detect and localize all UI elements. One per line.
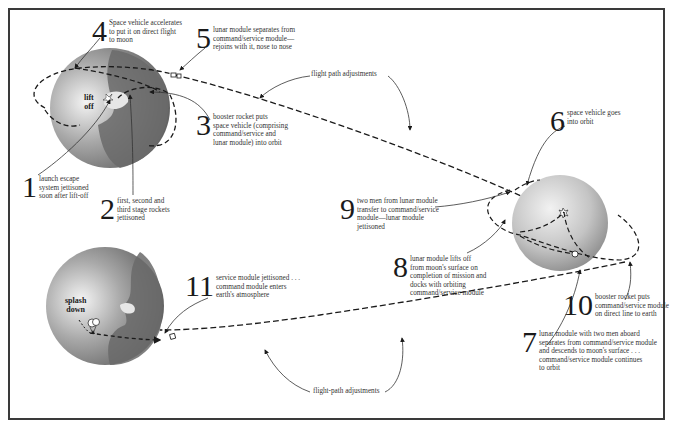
- step-11: 11 service module jettisoned . . . comma…: [185, 273, 300, 300]
- step-text: space vehicle goes into orbit: [567, 108, 620, 126]
- step-7: 7 lunar module with two men aboard separ…: [522, 329, 657, 373]
- step-8: 8 lunar module lifts off from moon's sur…: [393, 254, 486, 298]
- splashdown-label: splash down: [65, 296, 86, 314]
- step-1: 1 launch escape system jettisoned soon a…: [22, 174, 89, 201]
- earth-return: [46, 247, 164, 365]
- outbound-adjustments-note: flight path adjustments: [311, 70, 377, 78]
- step-number: 6: [550, 108, 565, 134]
- step-2: 2 first, second and third stage rockets …: [100, 196, 170, 223]
- return-adjustments-note: flight-path adjustments: [313, 387, 379, 395]
- step-number: 3: [196, 112, 211, 138]
- step-text: booster rocket puts space vehicle (compr…: [213, 112, 288, 147]
- earth-launch: [50, 48, 170, 168]
- step-text: lunar module with two men aboard separat…: [539, 329, 657, 373]
- step-number: 5: [196, 25, 211, 51]
- step-number: 4: [92, 18, 107, 44]
- step-number: 11: [185, 273, 214, 299]
- step-number: 1: [22, 174, 37, 200]
- step-text: Space vehicle accelerates to put it on d…: [109, 18, 182, 45]
- lunar-module-icon: [572, 251, 578, 257]
- step-10: 10 booster rocket puts command/service m…: [563, 292, 669, 319]
- step-number: 7: [522, 329, 537, 355]
- step-text: lunar module lifts off from moon's surfa…: [410, 254, 486, 298]
- step-3: 3 booster rocket puts space vehicle (com…: [196, 112, 288, 147]
- step-number: 2: [100, 196, 115, 222]
- step-text: launch escape system jettisoned soon aft…: [39, 174, 89, 201]
- step-text: two men from lunar module transfer to co…: [357, 196, 439, 231]
- step-text: lunar module separates from command/serv…: [213, 25, 295, 52]
- step-number: 10: [563, 292, 593, 318]
- service-module-icon: [170, 333, 176, 339]
- step-5: 5 lunar module separates from command/se…: [196, 25, 295, 52]
- step-9: 9 two men from lunar module transfer to …: [340, 196, 439, 231]
- step-number: 8: [393, 254, 408, 280]
- step-text: first, second and third stage rockets je…: [117, 196, 170, 223]
- spacecraft-icon: [171, 73, 181, 78]
- step-4: 4 Space vehicle accelerates to put it on…: [92, 18, 182, 45]
- step-text: booster rocket puts command/service modu…: [595, 292, 669, 319]
- step-6: 6 space vehicle goes into orbit: [550, 108, 620, 134]
- step-text: service module jettisoned . . . command …: [216, 273, 300, 300]
- liftoff-label: lift off: [84, 93, 94, 111]
- step-number: 9: [340, 196, 355, 222]
